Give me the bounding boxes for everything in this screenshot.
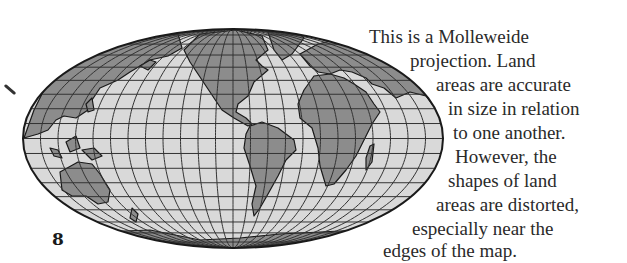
caption-line-7: shapes of land xyxy=(448,168,557,194)
caption-line-5: to one another. xyxy=(453,120,565,146)
caption-line-6: However, the xyxy=(455,144,557,170)
caption-line-10: edges of the map. xyxy=(383,238,517,263)
page-number: 8 xyxy=(52,229,64,249)
caption-line-4: in size in relation xyxy=(448,96,579,122)
caption-line-1: This is a Molleweide xyxy=(369,24,529,50)
caption-line-8: areas are distorted, xyxy=(436,192,579,218)
caption-line-2: projection. Land xyxy=(410,48,536,74)
caption-line-3: areas are accurate xyxy=(436,72,571,98)
